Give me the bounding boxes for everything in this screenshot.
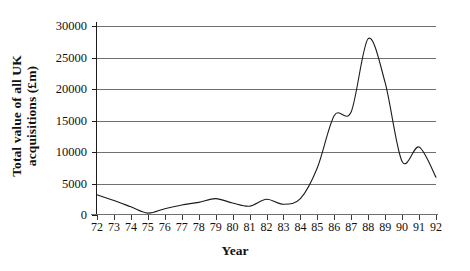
x-tick-label: 79 — [210, 220, 222, 235]
x-tick-label: 74 — [125, 220, 137, 235]
x-tick-label: 82 — [261, 220, 273, 235]
y-tick-label: 30000 — [56, 19, 87, 34]
x-tick-label: 87 — [345, 220, 357, 235]
data-line-series — [97, 26, 436, 215]
x-tick-label: 84 — [294, 220, 306, 235]
plot-area: 0500010000150002000025000300007273747576… — [97, 26, 436, 215]
x-tick-label: 83 — [277, 220, 289, 235]
x-tick-label: 76 — [159, 220, 171, 235]
line-chart: Total value of all UK acquisitions (£m) … — [0, 0, 470, 271]
x-axis-title: Year — [0, 243, 470, 259]
x-tick-label: 73 — [108, 220, 120, 235]
y-axis-title-line-2: acquisitions (£m) — [24, 66, 39, 166]
y-axis-title: Total value of all UK acquisitions (£m) — [0, 0, 48, 232]
x-tick-label: 86 — [328, 220, 340, 235]
x-tick-label: 88 — [362, 220, 374, 235]
x-tick-label: 77 — [176, 220, 188, 235]
y-tick-label: 20000 — [56, 82, 87, 97]
y-axis-title-line-1: Total value of all UK — [9, 55, 24, 177]
x-tick-label: 85 — [311, 220, 323, 235]
x-tick-label: 89 — [379, 220, 391, 235]
y-tick-label: 15000 — [56, 113, 87, 128]
x-tick-label: 81 — [244, 220, 256, 235]
x-tick-label: 78 — [193, 220, 205, 235]
data-line — [97, 38, 436, 213]
x-tick-label: 75 — [142, 220, 154, 235]
y-tick-label: 25000 — [56, 50, 87, 65]
x-tick-label: 91 — [413, 220, 425, 235]
y-tick-label: 0 — [81, 208, 87, 223]
y-tick-label: 10000 — [56, 145, 87, 160]
x-tick-label: 92 — [430, 220, 442, 235]
x-tick-label: 80 — [227, 220, 239, 235]
x-tick-label: 90 — [396, 220, 408, 235]
x-tick-label: 72 — [91, 220, 103, 235]
y-tick-label: 5000 — [62, 176, 87, 191]
